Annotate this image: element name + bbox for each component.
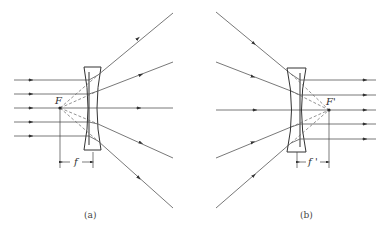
caption-b: (b) (300, 210, 313, 220)
arrow-icon (136, 38, 138, 40)
diverging-rays (89, 13, 173, 208)
out-ray-1 (89, 13, 173, 80)
focus-label-f-prime: F' (325, 96, 336, 107)
out-ray-4 (291, 124, 376, 127)
incident-converging-rays (216, 12, 376, 208)
in-ray-2 (216, 62, 291, 91)
out-ray-4 (89, 122, 173, 158)
caption-a: (a) (84, 210, 96, 220)
focal-length-label-f-prime: f ' (307, 156, 318, 167)
out-ray-5 (89, 136, 173, 208)
optics-diagram: F f (a) (0, 0, 390, 238)
emerging-parallel-rays (291, 74, 376, 143)
focal-length-label-f: f (73, 156, 80, 167)
out-ray-2 (89, 62, 173, 94)
panel-a: F f (a) (14, 13, 173, 220)
virtual-ray-extensions (291, 74, 329, 143)
panel-b: F' f ' (b) (216, 12, 376, 220)
focus-label-f: F (54, 95, 63, 106)
out-ray-2 (291, 91, 376, 95)
incident-parallel-rays (14, 80, 173, 136)
in-ray-4 (216, 127, 291, 158)
